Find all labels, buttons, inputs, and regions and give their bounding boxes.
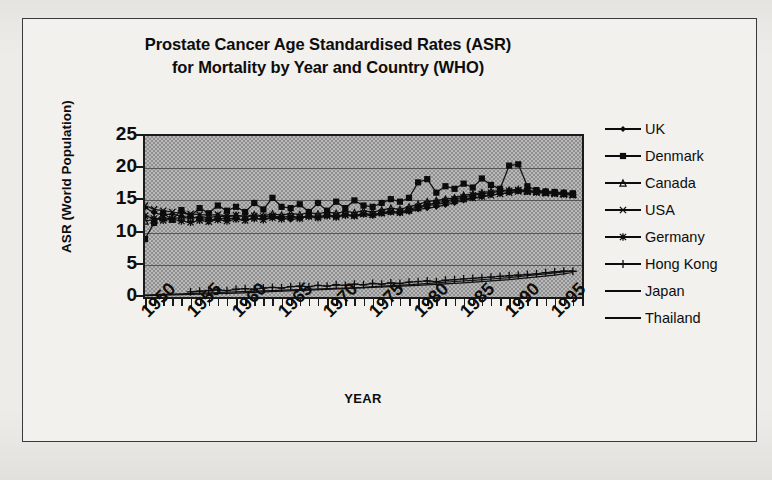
legend-marker-asterisk-icon — [603, 227, 643, 247]
chart-title: Prostate Cancer Age Standardised Rates (… — [63, 33, 593, 79]
x-tick-mark-1964 — [272, 297, 274, 306]
y-axis-tick-labels: 2520151050 — [85, 19, 137, 443]
chart-frame: Prostate Cancer Age Standardised Rates (… — [22, 18, 757, 442]
x-tick-mark-1994 — [546, 297, 548, 306]
x-tick-mark-1979 — [409, 297, 411, 306]
legend-label: Canada — [645, 175, 696, 191]
legend-marker-none-icon — [603, 281, 643, 301]
plot-area — [143, 134, 584, 299]
x-tick-mark-1959 — [227, 297, 229, 306]
legend-item-japan[interactable]: Japan — [603, 277, 753, 304]
legend-label: Denmark — [645, 148, 704, 164]
legend-item-uk[interactable]: UK — [603, 115, 753, 142]
x-axis-title: YEAR — [263, 391, 463, 406]
legend-item-denmark[interactable]: Denmark — [603, 142, 753, 169]
legend-label: Hong Kong — [645, 256, 718, 272]
x-tick-mark-1954 — [181, 297, 183, 306]
legend-marker-diamond-icon — [603, 119, 643, 139]
plot-series-svg — [145, 136, 582, 297]
legend-label: Japan — [645, 283, 685, 299]
legend-label: Thailand — [645, 310, 701, 326]
legend-label: UK — [645, 121, 665, 137]
chart-title-line-2: for Mortality by Year and Country (WHO) — [63, 56, 593, 79]
series-denmark — [145, 161, 576, 242]
legend-marker-x-icon — [603, 200, 643, 220]
legend-label: USA — [645, 202, 675, 218]
legend-item-germany[interactable]: Germany — [603, 223, 753, 250]
y-axis-title: ASR (World Population) — [59, 87, 74, 267]
legend-marker-none-icon — [603, 308, 643, 328]
legend-marker-square-icon — [603, 146, 643, 166]
legend-marker-triangle-icon — [603, 173, 643, 193]
legend-item-canada[interactable]: Canada — [603, 169, 753, 196]
chart-title-line-1: Prostate Cancer Age Standardised Rates (… — [63, 33, 593, 56]
legend-item-hong-kong[interactable]: Hong Kong — [603, 250, 753, 277]
x-tick-mark-1969 — [318, 297, 320, 306]
scanned-page-background: Prostate Cancer Age Standardised Rates (… — [0, 0, 772, 480]
x-tick-mark-1984 — [455, 297, 457, 306]
x-tick-mark-1974 — [364, 297, 366, 306]
chart-legend: UKDenmarkCanadaUSAGermanyHong KongJapanT… — [603, 115, 753, 331]
x-axis-tick-labels: 1950195519601965197019751980198519901995 — [23, 307, 643, 377]
legend-item-thailand[interactable]: Thailand — [603, 304, 753, 331]
x-tick-mark-1989 — [500, 297, 502, 306]
legend-item-usa[interactable]: USA — [603, 196, 753, 223]
legend-marker-plus-icon — [603, 254, 643, 274]
legend-label: Germany — [645, 229, 705, 245]
